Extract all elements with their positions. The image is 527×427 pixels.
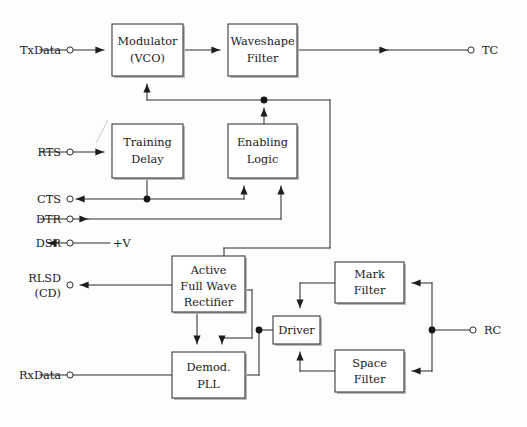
pin-rlsd-label-2: (CD) <box>34 287 61 300</box>
block-driver-label-1: Driver <box>278 324 315 337</box>
pin-dtr[interactable]: DTR <box>36 213 73 226</box>
block-waveshape-filter[interactable]: Waveshape Filter <box>228 24 299 78</box>
block-enabling-label-1: Enabling <box>237 136 288 149</box>
block-space-label-2: Filter <box>354 373 386 386</box>
pin-cts[interactable]: CTS <box>37 193 73 206</box>
block-training-delay[interactable]: Training Delay <box>112 124 185 180</box>
pin-rlsd[interactable]: RLSD (CD) <box>28 272 73 300</box>
pin-dsr-terminal[interactable] <box>67 240 73 246</box>
pin-rc-label: RC <box>484 324 501 337</box>
junction-dot-cts-branch <box>144 196 151 203</box>
supply-vplus-label: +V <box>113 237 131 250</box>
pin-rts[interactable]: RTS <box>37 146 73 159</box>
block-waveshape-label-2: Filter <box>247 52 279 65</box>
pin-txdata-label: TxData <box>20 44 61 57</box>
block-modulator-label-2: (VCO) <box>130 52 165 65</box>
block-space-label-1: Space <box>352 357 387 370</box>
pin-rlsd-terminal[interactable] <box>67 282 73 288</box>
block-training-label-1: Training <box>123 136 172 149</box>
block-space-filter[interactable]: Space Filter <box>335 350 406 394</box>
block-driver[interactable]: Driver <box>273 316 322 346</box>
pin-rlsd-label: RLSD <box>28 272 61 285</box>
pin-dtr-terminal[interactable] <box>67 216 73 222</box>
block-rectifier-label-3: Rectifier <box>184 296 234 309</box>
pin-tc[interactable]: TC <box>468 44 498 57</box>
block-modulator[interactable]: Modulator (VCO) <box>112 24 185 78</box>
pin-tc-terminal[interactable] <box>468 47 474 53</box>
block-enabling-label-2: Logic <box>247 153 278 166</box>
pin-tc-label: TC <box>482 44 498 57</box>
scan-artifact-line <box>96 120 108 143</box>
pin-rc[interactable]: RC <box>470 324 501 337</box>
modem-block-diagram-svg: Modulator (VCO) Waveshape Filter Trainin… <box>0 0 527 427</box>
pin-dtr-label: DTR <box>36 213 62 226</box>
block-mark-label-2: Filter <box>354 284 386 297</box>
block-rectifier-label-2: Full Wave <box>180 280 237 293</box>
wires-layer <box>40 50 470 375</box>
block-demod-pll[interactable]: Demod. PLL <box>172 352 247 400</box>
pin-rxdata-label: RxData <box>19 369 61 382</box>
block-mark-filter[interactable]: Mark Filter <box>335 262 406 305</box>
block-mark-label-1: Mark <box>354 268 385 281</box>
junction-dot-rc-split <box>429 327 436 334</box>
pin-cts-label: CTS <box>37 193 61 206</box>
pin-rts-label: RTS <box>37 146 61 159</box>
block-modulator-label-1: Modulator <box>118 35 179 48</box>
pin-dsr-label: DSR <box>36 237 62 250</box>
junction-dot-feedback-top <box>261 97 268 104</box>
block-waveshape-label-1: Waveshape <box>230 35 294 48</box>
pin-dsr[interactable]: DSR <box>36 237 73 250</box>
pin-rts-terminal[interactable] <box>67 149 73 155</box>
block-diagram-canvas: Modulator (VCO) Waveshape Filter Trainin… <box>0 0 527 427</box>
block-rectifier-label-1: Active <box>190 264 227 277</box>
pin-txdata-terminal[interactable] <box>67 47 73 53</box>
junction-dot-driver-input <box>256 327 263 334</box>
block-enabling-logic[interactable]: Enabling Logic <box>228 124 299 180</box>
block-training-label-2: Delay <box>131 153 164 166</box>
pin-cts-terminal[interactable] <box>67 196 73 202</box>
block-active-full-wave-rectifier[interactable]: Active Full Wave Rectifier <box>172 256 247 314</box>
block-demod-label-2: PLL <box>197 378 220 391</box>
block-demod-label-1: Demod. <box>186 361 230 374</box>
pin-rc-terminal[interactable] <box>470 327 476 333</box>
supply-vplus: +V <box>113 237 131 250</box>
pin-rxdata-terminal[interactable] <box>67 372 73 378</box>
